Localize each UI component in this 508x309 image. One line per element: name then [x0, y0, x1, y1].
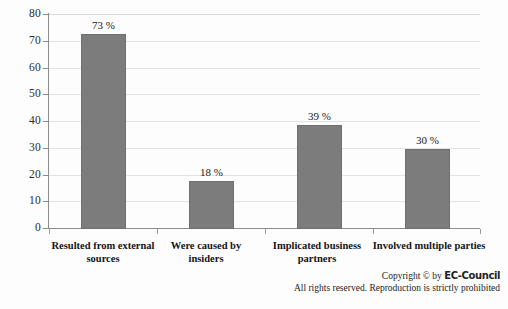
copyright-block: Copyright © by EC-Council All rights res… — [180, 270, 500, 294]
copyright-prefix: Copyright © by — [382, 271, 444, 281]
y-axis-label-20: 20 — [1, 169, 41, 181]
category-label-implicated-business-partners: Implicated business partners — [258, 240, 376, 265]
gridline-80 — [49, 14, 480, 15]
y-axis-label-30: 30 — [1, 142, 41, 154]
bar-resulted-from-external-sources[interactable] — [81, 34, 126, 229]
y-tick-10 — [43, 201, 49, 202]
bar-value-label-3: 39 % — [289, 111, 350, 122]
y-axis-labels: 80 70 60 50 40 30 20 10 0 — [0, 0, 41, 240]
category-label-involved-multiple-parties: Involved multiple parties — [372, 240, 486, 253]
y-tick-20 — [43, 175, 49, 176]
x-tick-1 — [157, 229, 158, 234]
y-tick-40 — [43, 121, 49, 122]
y-axis-label-10: 10 — [1, 195, 41, 207]
y-tick-70 — [43, 41, 49, 42]
ec-council-brand: EC-Council — [444, 270, 500, 281]
y-axis-label-60: 60 — [1, 62, 41, 74]
bar-were-caused-by-insiders[interactable] — [189, 181, 234, 229]
category-label-resulted-from-external-sources: Resulted from external sources — [42, 240, 164, 265]
y-tick-50 — [43, 94, 49, 95]
rights-reserved-line: All rights reserved. Reproduction is str… — [180, 282, 500, 294]
y-axis-label-40: 40 — [1, 115, 41, 127]
copyright-line: Copyright © by EC-Council — [180, 270, 500, 282]
y-axis-label-80: 80 — [1, 8, 41, 20]
chart-screenshot: 80 70 60 50 40 30 20 10 0 73 % 18 % 39 %… — [0, 0, 508, 309]
x-tick-4 — [480, 229, 481, 234]
y-tick-80 — [43, 14, 49, 15]
y-axis-label-50: 50 — [1, 88, 41, 100]
bar-value-label-1: 73 % — [73, 20, 134, 31]
y-tick-60 — [43, 68, 49, 69]
bar-involved-multiple-parties[interactable] — [405, 149, 450, 229]
bar-value-label-2: 18 % — [181, 167, 242, 178]
bar-implicated-business-partners[interactable] — [297, 125, 342, 229]
category-label-were-caused-by-insiders: Were caused by insiders — [152, 240, 260, 265]
y-tick-30 — [43, 148, 49, 149]
x-tick-3 — [373, 229, 374, 234]
x-tick-2 — [265, 229, 266, 234]
y-axis-label-0: 0 — [1, 222, 41, 234]
y-axis-label-70: 70 — [1, 35, 41, 47]
x-tick-0 — [49, 229, 50, 234]
bar-value-label-4: 30 % — [397, 135, 458, 146]
